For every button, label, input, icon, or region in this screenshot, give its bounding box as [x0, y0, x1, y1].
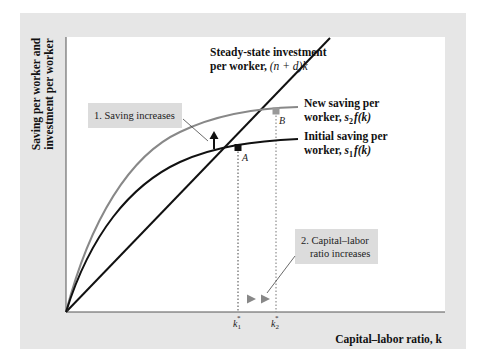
annotation-capital-labor-line1: 2. Capital–labor: [301, 235, 369, 246]
label-initial-saving-line1: Initial saving per: [304, 130, 388, 143]
chart-figure: A B 1. Saving increases 2. Capital–labor…: [0, 0, 478, 361]
plot-area: [66, 37, 445, 312]
svg-text:Saving per worker and: Saving per worker and: [30, 37, 43, 150]
label-investment-line1: Steady-state investment: [210, 46, 327, 59]
point-a-marker: [235, 144, 242, 151]
label-new-saving-line1: New saving per: [304, 97, 379, 110]
x-axis-label: Capital–labor ratio, k: [335, 333, 442, 346]
y-axis-label: Saving per worker and investment per wor…: [30, 37, 56, 150]
svg-text:investment per worker: investment per worker: [43, 38, 56, 150]
point-a-label: A: [241, 152, 249, 163]
label-investment-line2: per worker, (n + d)k: [210, 60, 308, 73]
annotation-saving-increases-text: 1. Saving increases: [94, 110, 175, 121]
point-b-label: B: [279, 115, 285, 126]
annotation-capital-labor-line2: ratio increases: [310, 248, 370, 259]
point-b-marker: [273, 108, 280, 115]
